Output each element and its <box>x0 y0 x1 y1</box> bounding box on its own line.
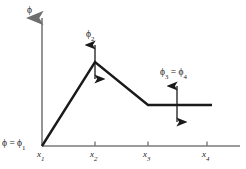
x-tick-label-x4: x4 <box>202 150 209 162</box>
x-tick-label-x3: x3 <box>143 150 150 162</box>
phi3-equals-phi4-label: ϕ3 = ϕ4 <box>160 68 187 80</box>
phi2-label: ϕ2 <box>86 30 94 42</box>
figure-container: ϕ ϕ2 ϕ3 = ϕ4 ϕ = ϕ1 x1 x2 x3 x4 <box>0 0 246 169</box>
phi-equals-phi1-label: ϕ = ϕ1 <box>2 139 26 151</box>
y-axis-label: ϕ <box>27 6 32 16</box>
x-tick-label-x2: x2 <box>90 150 97 162</box>
diagram-svg <box>0 0 246 169</box>
x-tick-label-x1: x1 <box>37 150 44 162</box>
